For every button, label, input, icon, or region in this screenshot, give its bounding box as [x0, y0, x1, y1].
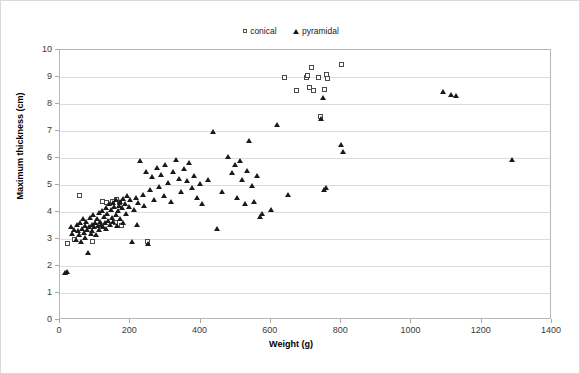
- x-axis-tick: [129, 319, 130, 323]
- legend-label-conical: conical: [250, 26, 276, 36]
- data-point-conical: [325, 76, 330, 81]
- data-point-pyramidal: [237, 158, 243, 163]
- data-point-pyramidal: [149, 174, 155, 179]
- data-point-pyramidal: [244, 168, 250, 173]
- data-point-pyramidal: [133, 195, 139, 200]
- data-point-pyramidal: [85, 250, 91, 255]
- data-point-pyramidal: [246, 138, 252, 143]
- data-point-pyramidal: [184, 178, 190, 183]
- data-point-pyramidal: [178, 189, 184, 194]
- y-axis-tick-label: 6: [47, 152, 52, 162]
- data-point-pyramidal: [181, 166, 187, 171]
- y-axis-tick-label: 0: [47, 314, 52, 324]
- data-point-pyramidal: [156, 184, 162, 189]
- data-point-pyramidal: [147, 187, 153, 192]
- x-axis-tick-label: 200: [122, 325, 137, 335]
- data-point-pyramidal: [197, 181, 203, 186]
- y-axis-tick-label: 2: [47, 260, 52, 270]
- data-point-pyramidal: [320, 95, 326, 100]
- y-axis-tick-label: 4: [47, 206, 52, 216]
- open-square-marker-icon: [243, 29, 247, 33]
- data-point-conical: [339, 62, 344, 67]
- filled-triangle-marker-icon: [293, 29, 299, 34]
- data-point-pyramidal: [274, 122, 280, 127]
- data-point-pyramidal: [199, 201, 205, 206]
- data-point-conical: [282, 75, 287, 80]
- gridline: [60, 266, 550, 267]
- data-point-pyramidal: [229, 170, 235, 175]
- data-point-conical: [77, 193, 82, 198]
- data-point-pyramidal: [143, 169, 149, 174]
- legend-entry-pyramidal: pyramidal: [293, 25, 339, 36]
- data-point-pyramidal: [173, 157, 179, 162]
- data-point-pyramidal: [134, 222, 140, 227]
- gridline: [60, 212, 550, 213]
- data-point-pyramidal: [168, 199, 174, 204]
- x-axis-tick: [270, 319, 271, 323]
- data-point-pyramidal: [131, 207, 137, 212]
- x-axis-tick: [59, 319, 60, 323]
- data-point-pyramidal: [154, 165, 160, 170]
- data-point-pyramidal: [338, 142, 344, 147]
- data-point-conical: [322, 87, 327, 92]
- data-point-pyramidal: [120, 220, 126, 225]
- data-point-pyramidal: [170, 169, 176, 174]
- x-axis-tick-label: 400: [192, 325, 207, 335]
- data-point-conical: [90, 239, 95, 244]
- data-point-pyramidal: [219, 189, 225, 194]
- data-point-pyramidal: [165, 180, 171, 185]
- x-axis-title: Weight (g): [1, 339, 580, 349]
- data-point-pyramidal: [239, 177, 245, 182]
- x-axis: 0200400600800100012001400: [59, 319, 551, 341]
- data-point-conical: [309, 65, 314, 70]
- data-point-pyramidal: [123, 211, 129, 216]
- data-point-pyramidal: [151, 197, 157, 202]
- data-point-pyramidal: [161, 193, 167, 198]
- data-point-pyramidal: [268, 207, 274, 212]
- data-point-pyramidal: [140, 192, 146, 197]
- data-point-pyramidal: [189, 185, 195, 190]
- data-point-pyramidal: [259, 211, 265, 216]
- data-point-pyramidal: [141, 203, 147, 208]
- y-axis-tick-label: 10: [42, 44, 52, 54]
- data-point-pyramidal: [509, 157, 515, 162]
- data-point-conical: [65, 241, 70, 246]
- x-axis-tick-label: 800: [333, 325, 348, 335]
- y-axis-tick-label: 8: [47, 98, 52, 108]
- x-axis-tick: [200, 319, 201, 323]
- data-point-pyramidal: [194, 195, 200, 200]
- data-point-pyramidal: [191, 173, 197, 178]
- data-point-pyramidal: [162, 162, 168, 167]
- y-axis-tick-label: 3: [47, 233, 52, 243]
- data-point-pyramidal: [176, 176, 182, 181]
- gridline: [60, 131, 550, 132]
- gridline: [60, 104, 550, 105]
- x-axis-tick: [410, 319, 411, 323]
- y-axis-tick-label: 5: [47, 179, 52, 189]
- data-point-pyramidal: [251, 199, 257, 204]
- x-axis-tick: [481, 319, 482, 323]
- x-axis-tick-label: 1000: [400, 325, 420, 335]
- data-point-pyramidal: [205, 177, 211, 182]
- chart-legend: conical pyramidal: [1, 25, 580, 36]
- data-point-pyramidal: [93, 232, 99, 237]
- x-axis-tick-label: 0: [56, 325, 61, 335]
- x-axis-tick-label: 1400: [541, 325, 561, 335]
- data-point-pyramidal: [323, 185, 329, 190]
- data-point-pyramidal: [249, 183, 255, 188]
- data-point-pyramidal: [285, 192, 291, 197]
- data-point-pyramidal: [137, 158, 143, 163]
- data-point-pyramidal: [225, 154, 231, 159]
- data-point-pyramidal: [135, 200, 141, 205]
- y-axis-tick-label: 1: [47, 287, 52, 297]
- data-point-conical: [316, 75, 321, 80]
- data-point-pyramidal: [186, 160, 192, 165]
- data-point-pyramidal: [440, 89, 446, 94]
- scatter-chart: conical pyramidal 012345678910 020040060…: [0, 0, 580, 374]
- data-point-conical: [294, 88, 299, 93]
- plot-area: [59, 49, 551, 319]
- gridline: [60, 293, 550, 294]
- data-point-pyramidal: [254, 173, 260, 178]
- gridline: [60, 185, 550, 186]
- data-point-pyramidal: [340, 149, 346, 154]
